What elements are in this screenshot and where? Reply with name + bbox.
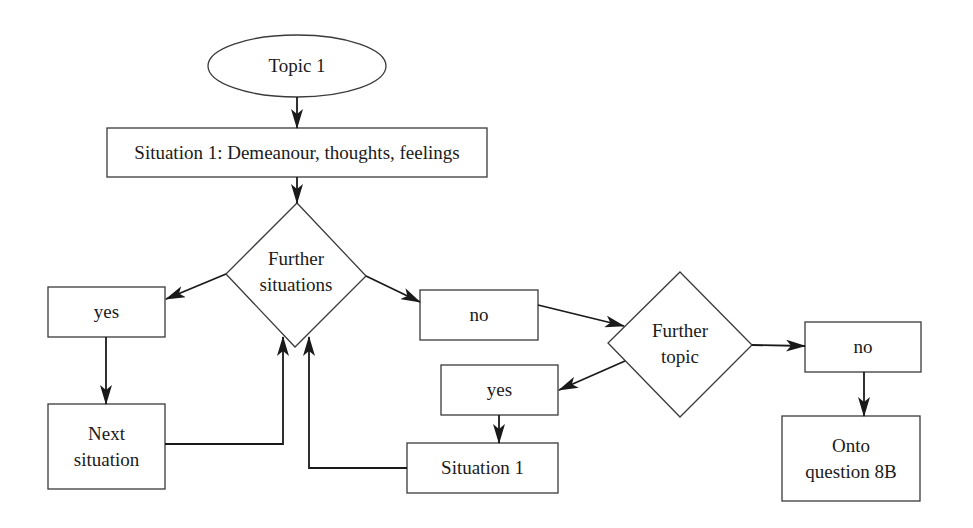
onto-question-line1: Onto (832, 433, 870, 459)
further-situations-line1: Further (268, 246, 324, 272)
edge-next-situation-loop (165, 337, 283, 444)
situation-1-loop-label: Situation 1 (407, 443, 558, 493)
further-topic-line1: Further (652, 318, 708, 344)
topic-1-label: Topic 1 (208, 46, 386, 86)
edge-further-topic-to-no (752, 345, 805, 346)
onto-question-label: Onto question 8B (782, 416, 920, 501)
further-topic-line2: topic (661, 344, 699, 370)
edge-further-situations-to-no (366, 276, 420, 302)
next-situation-line1: Next (88, 421, 125, 447)
yes-middle-label: yes (441, 365, 558, 415)
next-situation-label: Next situation (48, 404, 165, 489)
further-situations-line2: situations (260, 272, 333, 298)
edge-further-situations-to-yes (166, 274, 226, 299)
further-topic-label: Further topic (620, 316, 740, 372)
yes-left-label: yes (48, 287, 165, 337)
next-situation-line2: situation (74, 447, 139, 473)
no-right-label: no (805, 322, 921, 372)
further-situations-label: Further situations (236, 244, 356, 300)
edge-no-to-further-topic (538, 305, 624, 326)
edge-situation-1-loop (309, 337, 407, 468)
onto-question-line2: question 8B (805, 459, 896, 485)
no-middle-label: no (420, 290, 538, 340)
edge-further-topic-to-yes (559, 361, 625, 390)
situation-1-main-label: Situation 1: Demeanour, thoughts, feelin… (107, 128, 487, 177)
